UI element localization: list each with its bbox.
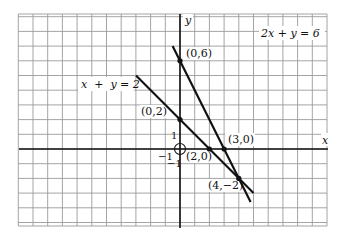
tick-label-y-minus-1: −1: [167, 158, 182, 169]
label-point-3-0: (3,0): [228, 133, 254, 146]
point-0-2: [177, 117, 182, 122]
label-point-2-0: (2,0): [186, 150, 212, 163]
tick-label-y-1: 1: [171, 130, 177, 141]
point-0-6: [177, 58, 182, 63]
equation-2x-plus-y-eq-6: 2x + y = 6: [260, 27, 320, 40]
label-point-4-m2: (4,−2): [208, 179, 243, 192]
grid-lines: [18, 14, 327, 226]
y-axis-label: y: [184, 14, 192, 27]
point-3-0: [222, 146, 227, 151]
label-point-0-6: (0,6): [186, 47, 212, 60]
graph-figure: y x 2x + y = 6 x + y = 2 (0,6) (0,2) (2,…: [0, 0, 344, 238]
equation-x-plus-y-eq-2: x + y = 2: [81, 78, 140, 91]
x-axis-label: x: [322, 134, 329, 147]
label-point-0-2: (0,2): [141, 105, 167, 118]
